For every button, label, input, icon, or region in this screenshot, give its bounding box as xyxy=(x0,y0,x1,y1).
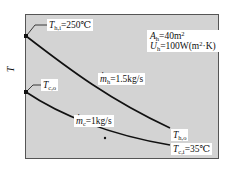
label-u: Uh=100W(m2·K) xyxy=(150,41,216,51)
label-mh: mh=1.5kg/s xyxy=(98,73,145,85)
tc-out-leader xyxy=(27,85,42,91)
label-area: Ah=40m2 xyxy=(150,31,216,41)
label-tc-inlet: Tc,i=35℃ xyxy=(171,143,212,155)
cold-curve-dot xyxy=(104,137,106,139)
label-area-u: Ah=40m2 Uh=100W(m2·K) xyxy=(147,30,219,52)
label-th-outlet: Th,o xyxy=(171,129,188,141)
y-axis-label: T xyxy=(5,67,16,73)
label-th-inlet: Th,i=250℃ xyxy=(47,19,93,31)
label-tc-outlet: Tc,o xyxy=(41,79,58,91)
th-in-leader xyxy=(27,25,48,35)
label-mc: mc=1kg/s xyxy=(74,115,114,127)
